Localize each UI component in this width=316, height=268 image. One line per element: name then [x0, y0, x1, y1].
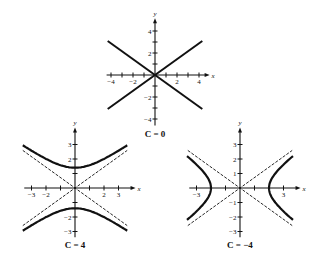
y-axis-label: y — [153, 10, 158, 18]
x-tick-label: −4 — [107, 78, 115, 86]
y-axis-label: y — [73, 119, 78, 127]
y-arrow-icon — [153, 18, 157, 23]
x-axis-label: x — [302, 185, 307, 193]
x-tick-label: −2 — [42, 191, 50, 199]
y-tick-label: 2 — [233, 156, 237, 164]
y-tick-label: 3 — [68, 141, 72, 149]
x-tick-label: −3 — [193, 191, 201, 199]
y-tick-label: −4 — [144, 116, 152, 124]
x-arrow-icon — [131, 186, 136, 190]
x-tick-label: 3 — [117, 191, 121, 199]
panel-c-equals-0: xy−4−22442−2−4C = 0 — [107, 10, 216, 138]
y-tick-label: −2 — [229, 214, 237, 222]
x-tick-label: −3 — [28, 191, 36, 199]
panel-caption: C = −4 — [227, 240, 253, 250]
hyperbola-family-diagram: xy−4−22442−2−4C = 0 xy−3−22332−2−3C = 4 … — [0, 0, 316, 268]
y-axis-label: y — [238, 119, 243, 127]
x-axis-label: x — [211, 72, 216, 80]
y-tick-label: 4 — [148, 28, 152, 36]
y-tick-label: −3 — [64, 228, 72, 236]
panel-caption: C = 4 — [65, 240, 86, 250]
x-tick-label: 2 — [175, 78, 179, 86]
panel-caption: C = 0 — [145, 129, 166, 139]
y-arrow-icon — [238, 127, 242, 132]
y-tick-label: 2 — [68, 156, 72, 164]
y-tick-label: −3 — [229, 228, 237, 236]
x-axis-label: x — [137, 185, 142, 193]
x-arrow-icon — [296, 186, 301, 190]
x-tick-label: 4 — [197, 78, 201, 86]
x-tick-label: 2 — [102, 191, 106, 199]
x-tick-label: −2 — [129, 78, 137, 86]
y-tick-label: 2 — [148, 50, 152, 58]
y-tick-label: −2 — [64, 214, 72, 222]
y-tick-label: 3 — [233, 141, 237, 149]
y-tick-label: −2 — [144, 94, 152, 102]
y-arrow-icon — [73, 127, 77, 132]
y-tick-label: 1 — [233, 170, 237, 178]
x-tick-label: 3 — [282, 191, 286, 199]
panel-c-equals-minus-4: xy−33321−1−2−3C = −4 — [187, 119, 307, 250]
y-tick-label: −1 — [229, 199, 237, 207]
x-arrow-icon — [205, 73, 210, 77]
panel-c-equals-4: xy−3−22332−2−3C = 4 — [23, 119, 142, 250]
